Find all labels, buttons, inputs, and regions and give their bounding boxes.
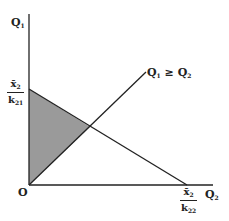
x-axis-label: Q2 [205, 189, 219, 201]
y-intercept-label: x̄2 k21 [7, 79, 24, 106]
origin-label: O [18, 187, 28, 198]
x-intercept-label: x̄2 k22 [180, 187, 197, 214]
y-axis-label: Q1 [11, 17, 25, 29]
ray-label: Q1 ≥ Q2 [147, 67, 191, 79]
shaded-feasible-region [29, 89, 90, 185]
